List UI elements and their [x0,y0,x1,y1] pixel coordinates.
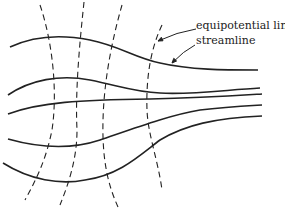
equipotential-line [147,25,162,190]
streamline-label: streamline [196,34,255,47]
streamline [8,78,260,95]
streamline [8,105,262,147]
equipotential-line [60,2,84,205]
label-arrows [158,29,196,63]
equipotential-line [103,5,122,207]
streamlines [3,37,262,182]
arrow-line [158,29,196,41]
equipotential-line-label: equipotential line [196,19,285,32]
arrowhead-icon [158,37,163,41]
equipotential-line [25,5,54,200]
streamline [3,116,262,182]
streamline [8,94,262,114]
